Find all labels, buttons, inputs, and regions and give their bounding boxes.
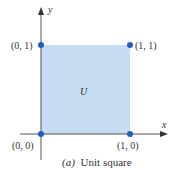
point-0-1	[38, 42, 44, 48]
point-label-0-1: (0, 1)	[11, 40, 33, 52]
unit-square-diagram: y x U (0, 1) (1, 1) (0, 0) (1, 0) (a) Un…	[0, 0, 181, 170]
caption: (a) Unit square	[62, 156, 132, 169]
y-axis-arrow-icon	[38, 7, 44, 15]
point-label-1-1: (1, 1)	[135, 40, 157, 52]
x-axis-arrow-icon	[160, 131, 168, 137]
point-1-0	[127, 131, 133, 137]
point-0-0	[38, 131, 44, 137]
point-label-1-0: (1, 0)	[117, 140, 139, 152]
point-label-0-0: (0, 0)	[12, 140, 34, 152]
y-axis-label: y	[47, 4, 53, 15]
point-1-1	[127, 42, 133, 48]
x-axis-label: x	[161, 119, 167, 130]
region-label: U	[80, 86, 88, 97]
caption-text: Unit square	[81, 156, 132, 168]
caption-prefix: (a)	[62, 156, 75, 169]
